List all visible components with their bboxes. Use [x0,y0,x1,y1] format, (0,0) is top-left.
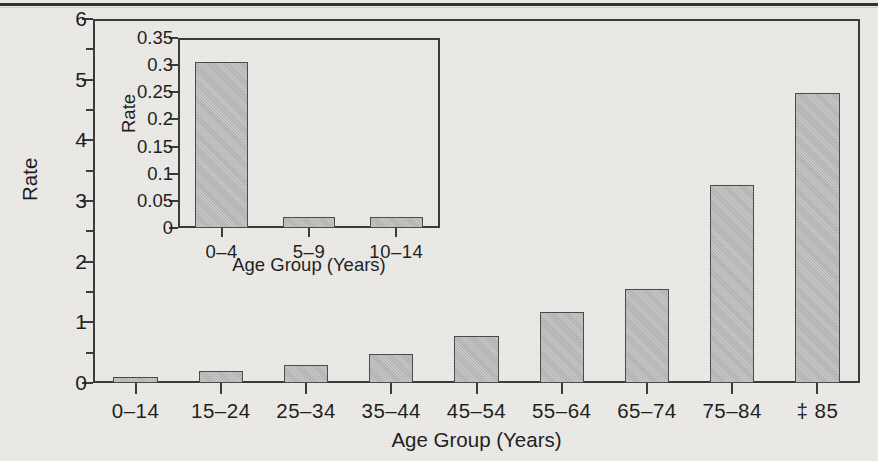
x-axis-tick-label: 75–84 [702,399,762,423]
y-axis-tick-label: 0 [163,217,173,239]
bar [625,289,669,383]
y-axis-minor-tick [86,352,93,354]
x-axis-tick [561,383,563,394]
x-axis-tick-label: 15–24 [191,399,251,423]
y-axis-minor-tick [86,291,93,293]
bar [283,217,335,228]
y-axis-tick-label: 4 [75,128,87,152]
y-axis-tick-label: 0.25 [137,81,173,103]
bar [710,185,754,383]
header-rule-shadow [0,7,878,8]
y-axis-tick-label: 2 [75,250,87,274]
bar [540,312,584,383]
bar [195,62,247,228]
x-axis-tick [221,228,223,237]
y-axis-tick-label: 5 [75,68,87,92]
figure-canvas: 0–1415–2425–3435–4445–5455–6465–7475–84‡… [0,0,878,461]
x-axis-tick [308,228,310,237]
y-axis-minor-tick [86,48,93,50]
y-axis-tick-label: 0.3 [147,54,173,76]
y-axis-tick-label: 3 [75,189,87,213]
bar [199,371,243,383]
x-axis-tick [305,383,307,394]
bar [369,354,413,383]
y-axis-tick-label: 0 [75,371,87,395]
y-axis-tick-label: 0.05 [137,190,173,212]
inset-bar-series: 0–45–910–1400.050.10.150.20.250.30.35 [178,38,440,228]
y-axis-minor-tick [86,170,93,172]
header-rule [0,3,878,6]
x-axis-tick-label: 35–44 [362,399,422,423]
x-axis-tick [476,383,478,394]
bar [370,217,422,228]
x-axis-tick [816,383,818,394]
y-axis-tick-label: 1 [75,310,87,334]
x-axis-tick [135,383,137,394]
x-axis-tick-label: 25–34 [276,399,336,423]
main-y-axis-title: Rate [18,158,42,201]
x-axis-tick-label: 0–14 [112,399,160,423]
y-axis-minor-tick [86,109,93,111]
x-axis-tick [731,383,733,394]
x-axis-tick [646,383,648,394]
x-axis-tick-label: 65–74 [617,399,677,423]
inset-x-axis-title: Age Group (Years) [178,254,440,276]
y-axis-tick-label: 6 [75,7,87,31]
x-axis-tick [395,228,397,237]
bar [795,93,839,383]
bar [454,336,498,383]
x-axis-tick-label: 45–54 [447,399,507,423]
inset-y-axis-title: Rate [118,94,140,133]
x-axis-tick [220,383,222,394]
x-axis-tick-label: ‡ 85 [796,399,838,423]
y-axis-tick-label: 0.1 [147,163,173,185]
x-axis-tick [390,383,392,394]
main-x-axis-title: Age Group (Years) [93,428,860,452]
y-axis-tick-label: 0.15 [137,136,173,158]
x-axis-tick-label: 55–64 [532,399,592,423]
bar [284,365,328,383]
y-axis-tick-label: 0.2 [147,108,173,130]
y-axis-tick-label: 0.35 [137,27,173,49]
y-axis-minor-tick [86,230,93,232]
